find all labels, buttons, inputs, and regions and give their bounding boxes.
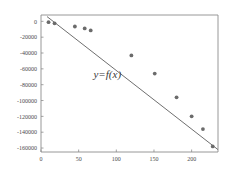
y-tick-label: 0 [34, 19, 37, 25]
equation-annotation: y=f(x) [92, 68, 121, 81]
data-point [129, 53, 133, 57]
y-axis-ticks: 0-20000-40000-60000-80000-100000-120000-… [17, 19, 44, 152]
x-tick-label: 150 [149, 156, 158, 162]
x-tick-label: 50 [76, 156, 82, 162]
scatter-plot: 050100150200 0-20000-40000-60000-80000-1… [0, 0, 234, 174]
data-point [73, 25, 77, 29]
x-axis-ticks: 050100150200 [40, 150, 197, 163]
y-tick-label: -140000 [17, 129, 37, 135]
data-point [190, 114, 194, 118]
trend-line-path [47, 17, 218, 150]
data-point [201, 127, 205, 131]
data-point [47, 20, 51, 24]
data-point-markers [47, 20, 215, 148]
data-point [153, 72, 157, 76]
y-tick-label: -60000 [20, 66, 37, 72]
y-tick-label: -160000 [17, 145, 37, 151]
x-tick-label: 0 [40, 156, 43, 162]
equation-label: y=f(x) [92, 68, 121, 81]
x-tick-label: 200 [187, 156, 196, 162]
y-tick-label: -100000 [17, 98, 37, 104]
chart-figure: 050100150200 0-20000-40000-60000-80000-1… [0, 0, 234, 174]
x-tick-label: 100 [112, 156, 121, 162]
y-tick-label: -20000 [20, 34, 37, 40]
y-tick-label: -40000 [20, 50, 37, 56]
plot-frame [41, 15, 218, 152]
data-point [53, 21, 57, 25]
data-point [89, 29, 93, 33]
data-point [211, 145, 215, 149]
data-point [175, 95, 179, 99]
fitted-trend-line [47, 17, 218, 150]
data-point [83, 27, 87, 31]
y-tick-label: -120000 [17, 114, 37, 120]
y-tick-label: -80000 [20, 82, 37, 88]
